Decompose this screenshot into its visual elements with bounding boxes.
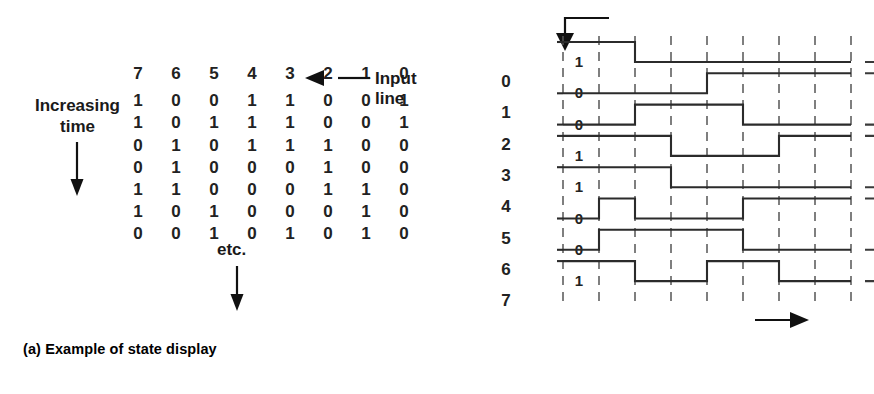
caption-a: (a) Example of state display [23, 341, 217, 357]
figure-state-display-and-timing-diagram: Increasing time 76543210 100110011011100… [0, 0, 874, 394]
panel-a-state-display: Increasing time 76543210 100110011011100… [0, 0, 437, 394]
panel-b-timing-diagram: Channel Line 1 on state display 01234567… [437, 0, 874, 394]
etc-arrow-a [0, 0, 437, 394]
increasing-time-arrow-b [437, 0, 874, 394]
